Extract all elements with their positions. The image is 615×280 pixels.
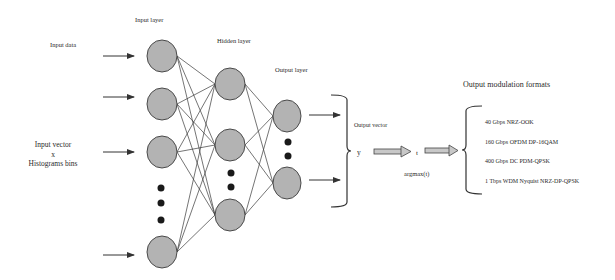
output-arrows xyxy=(309,115,340,180)
output-formats-title: Output modulation formats xyxy=(463,80,550,89)
hidden-node xyxy=(215,68,245,100)
output-ellipsis-dots xyxy=(285,139,292,160)
y-label: y xyxy=(357,148,361,157)
input-node xyxy=(147,40,177,72)
hidden-node xyxy=(215,199,245,231)
input-node xyxy=(147,136,177,168)
input-ellipsis-dots xyxy=(158,185,165,224)
output-format-item: 400 Gbps DC PDM-QPSK xyxy=(485,158,551,164)
output-layer-nodes xyxy=(273,100,301,199)
input-node xyxy=(147,236,177,268)
hidden-ellipsis-dots xyxy=(228,170,235,191)
hidden-output-connections xyxy=(245,84,273,215)
histogram-bins-label: Histograms bins xyxy=(29,159,78,168)
input-arrows xyxy=(103,56,134,255)
input-layer-nodes xyxy=(147,40,177,268)
output-format-item: 40 Gbps NRZ-OOK xyxy=(485,119,534,125)
input-layer-label: Input layer xyxy=(135,16,164,23)
output-formats-brace xyxy=(462,106,482,194)
output-node xyxy=(273,100,301,132)
hidden-layer-nodes xyxy=(215,68,245,231)
input-vector-label: Input vector xyxy=(35,140,72,149)
output-node xyxy=(273,167,301,199)
input-vector-x-label: x xyxy=(51,150,55,159)
hidden-layer-label: Hidden layer xyxy=(217,37,252,44)
input-data-label: Input data xyxy=(50,41,76,48)
neural-network-diagram: Input data Input layer Hidden layer Outp… xyxy=(0,0,615,280)
hidden-node xyxy=(215,129,245,161)
t-label: t xyxy=(416,149,418,157)
input-hidden-connections xyxy=(177,56,215,252)
input-node xyxy=(147,88,177,120)
output-vector-label: Output vector xyxy=(354,122,387,128)
hollow-arrow-t-to-formats xyxy=(425,145,458,156)
argmax-label: argmax(t) xyxy=(404,170,430,178)
output-layer-label: Output layer xyxy=(275,66,309,73)
hollow-arrow-y-to-t xyxy=(374,146,411,157)
output-format-item: 1 Tbps WDM Nyquist NRZ-DP-QPSK xyxy=(485,178,580,184)
output-format-item: 160 Gbps OFDM DP-16QAM xyxy=(485,139,559,145)
output-vector-brace xyxy=(331,95,351,207)
